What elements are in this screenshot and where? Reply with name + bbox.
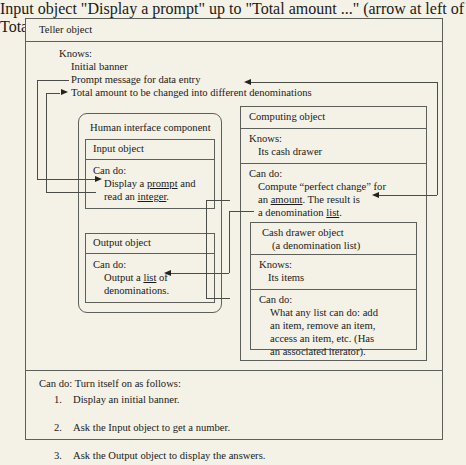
cash-drawer-subtitle: (a denomination list) xyxy=(272,240,360,253)
step-text: Ask the Input object to get a number. xyxy=(73,422,230,435)
computing-object-knows-label: Knows: xyxy=(249,133,282,146)
connector-amount-vertical-right xyxy=(437,82,438,195)
output-object-title-separator xyxy=(85,253,215,254)
input-object-line-2: read an integer. xyxy=(104,191,169,204)
computing-object-line-2: an amount. The result is xyxy=(258,194,360,207)
teller-knows-item-1: Prompt message for data entry xyxy=(71,74,200,87)
input-line2-underlined: integer xyxy=(138,191,167,202)
step-number: 1. xyxy=(54,394,62,407)
input-line2-pre: read an xyxy=(104,191,138,202)
connector-mid-rail-a-bottom xyxy=(206,298,230,299)
output-line1-underlined: list xyxy=(143,272,156,283)
input-object-title: Input object xyxy=(93,143,144,156)
step-number: 3. xyxy=(54,450,62,463)
computing-object-line-1: Compute “perfect change” for xyxy=(258,181,386,194)
teller-knows-item-0: Initial banner xyxy=(71,61,128,74)
cash-drawer-candu-label: Can do: xyxy=(259,294,292,307)
cash-drawer-knows-separator xyxy=(250,289,417,290)
arrow-right-icon xyxy=(61,89,68,95)
computing-object-candu-label: Can do: xyxy=(249,168,282,181)
connector-mid-rail-a xyxy=(206,200,207,298)
cash-drawer-line-1: What any list can do: add xyxy=(270,307,378,320)
list-item: 3. Ask the Output object to display the … xyxy=(54,422,78,436)
output-object-line-1: Output a list of xyxy=(104,272,168,285)
cash-drawer-line-3: access an item, etc. (Has xyxy=(270,333,374,346)
input-line2-post: . xyxy=(166,191,169,202)
step-text: Display an initial banner. xyxy=(73,394,180,407)
connector-amount-horizontal-in xyxy=(379,195,437,196)
connector-integer-horizontal-top xyxy=(46,93,60,94)
computing-object-knows-item: Its cash drawer xyxy=(258,146,322,159)
computing-line2-post: . The result is xyxy=(302,194,359,205)
teller-knows-item-2: Total amount to be changed into differen… xyxy=(71,87,312,100)
list-item: 1. Display an initial banner. xyxy=(54,394,78,408)
step-text: Ask the Output object to display the ans… xyxy=(73,450,265,463)
connector-denomlist-horizontal-upper xyxy=(229,211,254,212)
cash-drawer-line-2: an item, remove an item, xyxy=(270,320,375,333)
arrow-left-icon xyxy=(164,270,171,276)
arrow-left-icon xyxy=(372,192,379,198)
output-object-candu-label: Can do: xyxy=(93,259,126,272)
computing-object-line-3: a denomination list. xyxy=(258,207,342,220)
input-line1-post: and xyxy=(178,178,196,189)
cash-drawer-knows-item: Its items xyxy=(268,272,304,285)
teller-steps-list: 1. Display an initial banner. 2. Ask the… xyxy=(54,394,78,436)
cash-drawer-title: Cash drawer object xyxy=(262,227,344,240)
computing-object-title: Computing object xyxy=(249,111,325,124)
teller-title-separator xyxy=(25,41,443,42)
output-line1-pre: Output a xyxy=(104,272,143,283)
computing-line2-pre: an xyxy=(258,194,271,205)
human-interface-component-title: Human interface component xyxy=(90,122,211,135)
computing-object-title-separator xyxy=(240,128,427,129)
connector-mid-rail-a-top xyxy=(206,200,230,201)
computing-line3-pre: a denomination xyxy=(258,207,326,218)
output-object-line-2: denominations. xyxy=(104,285,169,298)
teller-candu-separator xyxy=(25,370,443,371)
connector-denomlist-horizontal-lower xyxy=(171,273,229,274)
teller-title: Teller object xyxy=(39,24,92,37)
connector-integer-vertical xyxy=(46,93,47,192)
computing-line2-underlined: amount xyxy=(271,194,303,205)
cash-drawer-knows-label: Knows: xyxy=(259,259,292,272)
input-line1-pre: Display a xyxy=(104,178,147,189)
computing-object-knows-separator xyxy=(240,163,427,164)
connector-amount-horizontal-top xyxy=(250,82,437,83)
teller-knows-label: Knows: xyxy=(59,48,92,61)
teller-candu-label: Can do: Turn itself on as follows: xyxy=(39,378,181,391)
connector-integer-horizontal-bottom xyxy=(46,192,96,193)
input-object-line-1: Display a prompt and xyxy=(104,178,196,191)
arrow-left-icon xyxy=(244,79,251,85)
connector-prompt-vertical xyxy=(37,80,38,179)
cash-drawer-line-4: an associated iterator). xyxy=(270,346,366,359)
input-line1-underlined: prompt xyxy=(147,178,178,189)
computing-line3-post: . xyxy=(339,207,342,218)
arrow-right-icon xyxy=(95,176,102,182)
computing-line3-underlined: list xyxy=(326,207,339,218)
output-object-title: Output object xyxy=(93,237,151,250)
cash-drawer-title-separator xyxy=(250,254,417,255)
connector-prompt-horizontal-top xyxy=(37,80,69,81)
input-object-title-separator xyxy=(85,159,215,160)
connector-denomlist-vertical xyxy=(229,211,230,273)
list-item: 2. Ask the Input object to get a number. xyxy=(54,408,78,422)
